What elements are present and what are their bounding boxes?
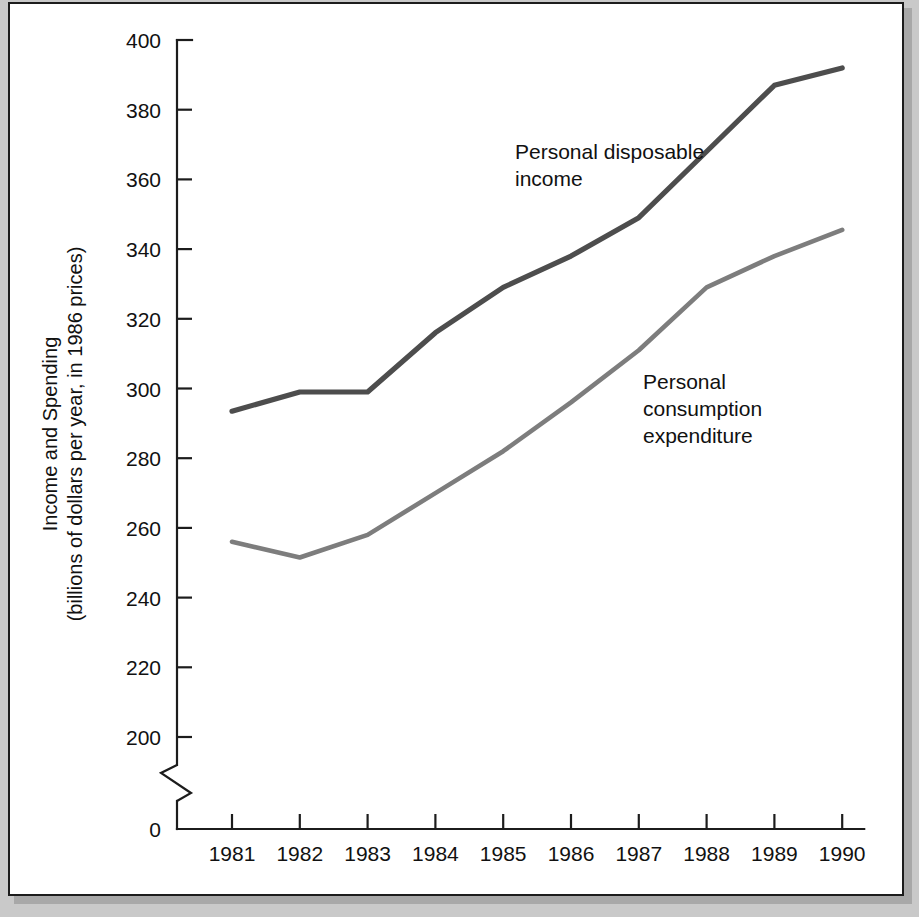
x-axis-tick-label: 1981 — [209, 842, 256, 865]
annotation-consumption-expenditure: Personalconsumptionexpenditure — [643, 370, 762, 447]
y-axis-title-line-1: Income and Spending — [39, 337, 61, 532]
annotation-line: Personal — [643, 370, 726, 393]
x-axis-tick-label: 1983 — [344, 842, 391, 865]
y-axis-tick-label: 220 — [126, 656, 161, 679]
y-axis-zero-label: 0 — [149, 818, 161, 841]
chart-panel: 2002202402602803003203403603804000 19811… — [8, 2, 904, 896]
y-axis-tick-label: 240 — [126, 587, 161, 610]
x-axis-tick-labels: 1981198219831984198519861987198819891990 — [209, 842, 866, 865]
x-axis-ticks — [232, 814, 842, 829]
y-axis-tick-labels: 2002202402602803003203403603804000 — [126, 29, 161, 841]
x-axis-tick-label: 1990 — [819, 842, 866, 865]
y-axis-tick-label: 200 — [126, 726, 161, 749]
x-axis-tick-label: 1986 — [548, 842, 595, 865]
y-axis-tick-label: 380 — [126, 99, 161, 122]
plot-area: 2002202402602803003203403603804000 19811… — [10, 4, 902, 894]
y-axis-tick-label: 400 — [126, 29, 161, 52]
x-axis-tick-label: 1988 — [683, 842, 730, 865]
series-line-disposable-income — [232, 68, 842, 411]
line-chart: 2002202402602803003203403603804000 19811… — [10, 4, 902, 894]
annotation-line: income — [515, 167, 583, 190]
y-axis-tick-label: 260 — [126, 517, 161, 540]
y-axis-title-line-2: (billions of dollars per year, in 1986 p… — [64, 247, 86, 622]
y-axis-ticks — [177, 110, 192, 737]
page-background: 2002202402602803003203403603804000 19811… — [0, 0, 919, 917]
x-axis-tick-label: 1982 — [276, 842, 323, 865]
x-axis-tick-label: 1987 — [615, 842, 662, 865]
y-axis-break-icon — [161, 765, 191, 801]
y-axis-tick-label: 320 — [126, 308, 161, 331]
y-axis-tick-label: 360 — [126, 168, 161, 191]
y-axis-tick-label: 300 — [126, 378, 161, 401]
annotation-line: Personal disposable — [515, 140, 704, 163]
y-axis-tick-label: 280 — [126, 447, 161, 470]
y-axis-tick-label: 340 — [126, 238, 161, 261]
y-axis-title: Income and Spending (billions of dollars… — [39, 247, 86, 622]
x-axis-tick-label: 1985 — [480, 842, 527, 865]
x-axis-tick-label: 1984 — [412, 842, 459, 865]
annotation-line: expenditure — [643, 424, 753, 447]
annotation-line: consumption — [643, 397, 762, 420]
x-axis-tick-label: 1989 — [751, 842, 798, 865]
annotations-group: Personal disposableincomePersonalconsump… — [515, 140, 762, 447]
